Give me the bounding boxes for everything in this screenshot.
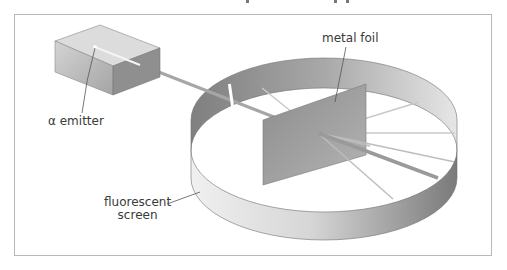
diagram: α emitter metal foil fluorescent screen: [0, 0, 507, 270]
screen-label-line2: screen: [104, 209, 171, 222]
apparatus-drawing: [0, 0, 507, 270]
metal-foil: [263, 84, 366, 185]
alpha-emitter-label: α emitter: [48, 115, 104, 128]
alpha-emitter-box: [55, 25, 160, 95]
metal-foil-label: metal foil: [322, 32, 379, 45]
fluorescent-screen-label: fluorescent screen: [104, 196, 171, 222]
